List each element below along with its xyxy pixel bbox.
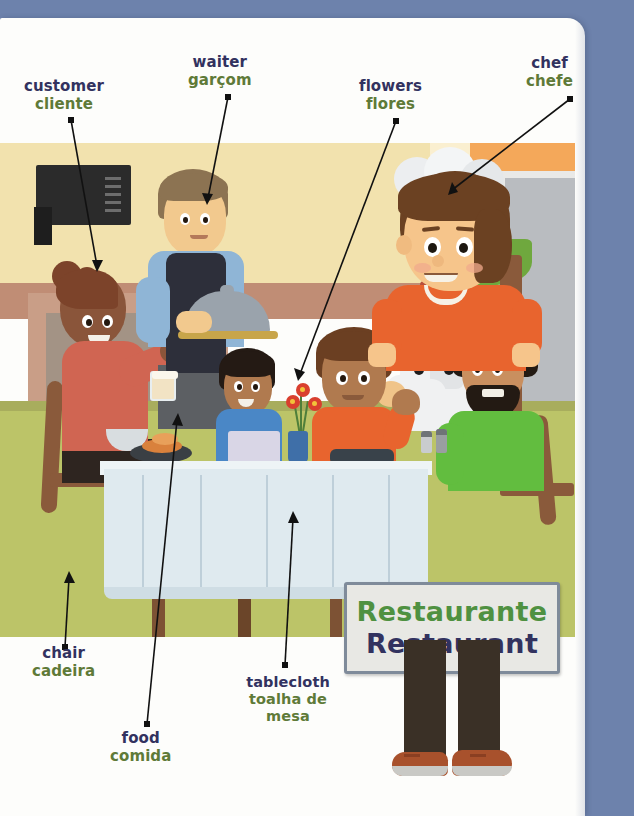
label-chair: chair cadeira [32,645,95,680]
label-customer: customer cliente [24,78,104,113]
paper-edge-shadow [575,18,585,816]
label-food-pt: comida [110,748,171,766]
label-chef: chef chefe [526,55,573,90]
label-waiter-en: waiter [188,54,252,72]
boy-shoe-lace-left [404,754,420,757]
restaurant-sign: Restaurante Restaurant [344,582,560,674]
table-leg-right [330,595,342,637]
label-tablecloth-pt: toalha de mesa [228,691,348,725]
label-food-en: food [110,730,171,748]
label-tablecloth-en: tablecloth [228,674,348,691]
boy-shoe-sole-left [392,766,448,776]
sign-text-english: Restaurant [366,628,538,660]
label-chef-en: chef [526,55,573,73]
label-waiter-pt: garçom [188,72,252,90]
sign-text-portuguese: Restaurante [357,596,548,628]
boy-shoe-sole-right [452,766,512,776]
label-customer-pt: cliente [24,96,104,114]
label-tablecloth: tablecloth toalha de mesa [228,674,348,725]
label-chef-pt: chefe [526,73,573,91]
label-food: food comida [110,730,171,765]
label-waiter: waiter garçom [188,54,252,89]
chalkboard-post [34,207,52,245]
label-customer-en: customer [24,78,104,96]
label-chair-pt: cadeira [32,663,95,681]
boy-leg-left [404,640,446,758]
tablecloth [104,469,428,597]
label-flowers: flowers flores [359,78,422,113]
table-leg-center [238,595,251,637]
page-root: Restaurante Restaurant [0,0,634,816]
label-flowers-en: flowers [359,78,422,96]
label-chair-en: chair [32,645,95,663]
label-flowers-pt: flores [359,96,422,114]
restaurant-illustration [0,143,575,637]
boy-shoe-lace-right [470,754,486,757]
food-topping [152,433,178,445]
boy-leg-right [458,640,500,756]
table-leg-left [152,595,165,637]
glass-foam [152,371,178,379]
